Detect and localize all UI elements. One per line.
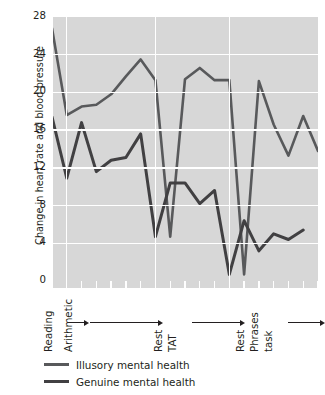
plot-lines	[52, 17, 318, 281]
gridline-horizontal	[52, 92, 318, 93]
x-phase-label-task-6: task	[263, 331, 274, 352]
x-tick-mark	[258, 281, 259, 288]
y-tick-label-4: 4	[2, 236, 46, 247]
phase-arrow	[70, 322, 84, 323]
y-tick-label-20: 20	[2, 85, 46, 96]
phase-arrowhead	[240, 320, 245, 326]
x-axis-tick-band	[52, 281, 318, 288]
legend-item-genuine: Genuine mental health	[44, 373, 304, 390]
gridline-horizontal	[52, 205, 318, 206]
phase-arrow	[90, 322, 158, 323]
x-phase-label-rest-4: Rest	[235, 330, 246, 352]
x-axis-phase-flow: ReadingArithmeticRestTATRestPhrasestask	[52, 290, 324, 352]
phase-arrowhead	[158, 320, 163, 326]
y-tick-label-28: 28	[2, 10, 46, 21]
legend-label-illusory: Illusory mental health	[76, 359, 190, 371]
legend-label-genuine: Genuine mental health	[76, 376, 195, 388]
x-tick-mark	[52, 281, 53, 288]
gridline-horizontal	[52, 243, 318, 244]
x-tick-mark	[81, 281, 82, 288]
x-tick-mark	[96, 281, 97, 288]
gridline-vertical	[229, 17, 230, 281]
x-tick-mark	[243, 281, 244, 288]
chart-legend: Illusory mental health Genuine mental he…	[44, 356, 304, 390]
phase-arrowhead	[320, 320, 325, 326]
gridline-vertical	[155, 17, 156, 281]
x-tick-mark	[140, 281, 141, 288]
series-line-genuine	[52, 117, 303, 274]
x-tick-mark	[229, 281, 230, 288]
x-tick-mark	[199, 281, 200, 288]
x-tick-mark	[66, 281, 67, 288]
x-tick-mark	[273, 281, 274, 288]
x-tick-mark	[317, 281, 318, 288]
y-tick-label-16: 16	[2, 123, 46, 134]
series-line-illusory	[52, 28, 318, 274]
x-tick-mark	[170, 281, 171, 288]
x-tick-mark	[155, 281, 156, 288]
y-tick-label-12: 12	[2, 161, 46, 172]
gridline-horizontal	[52, 167, 318, 168]
x-tick-mark	[214, 281, 215, 288]
x-tick-mark	[110, 281, 111, 288]
x-phase-label-arithmetic-1: Arithmetic	[63, 299, 74, 352]
y-tick-label-8: 8	[2, 199, 46, 210]
phase-arrowhead	[84, 320, 89, 326]
x-tick-mark	[288, 281, 289, 288]
gridline-horizontal	[52, 54, 318, 55]
legend-swatch-illusory	[44, 363, 69, 366]
x-phase-label-tat-3: TAT	[167, 334, 178, 352]
x-phase-label-rest-2: Rest	[153, 330, 164, 352]
gridline-vertical	[66, 17, 67, 281]
x-phase-label-phrases-5: Phrases	[249, 312, 260, 352]
x-tick-mark	[303, 281, 304, 288]
legend-item-illusory: Illusory mental health	[44, 356, 304, 373]
legend-swatch-genuine	[44, 380, 69, 383]
x-tick-mark	[184, 281, 185, 288]
gridline-horizontal	[52, 129, 318, 130]
phase-arrow	[192, 322, 240, 323]
y-tick-label-24: 24	[2, 48, 46, 59]
x-phase-label-reading-0: Reading	[43, 311, 54, 352]
x-tick-mark	[125, 281, 126, 288]
y-tick-label-0: 0	[2, 274, 46, 285]
plot-area	[52, 17, 318, 281]
gridline-vertical	[52, 17, 53, 281]
phase-arrow	[288, 322, 320, 323]
